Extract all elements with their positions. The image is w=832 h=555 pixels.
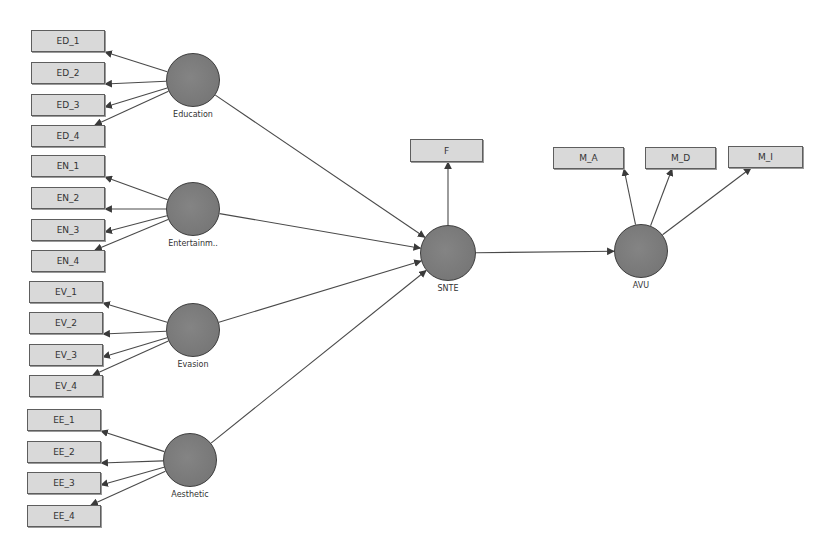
indicator-en-3[interactable]: EN_3 [31, 219, 105, 241]
loading-arrow-m_a [624, 169, 636, 225]
indicator-label: EN_3 [57, 225, 80, 235]
loading-arrow-ev_3 [103, 338, 167, 357]
loading-arrow-ev_4 [93, 341, 168, 375]
indicator-label: EV_2 [55, 318, 77, 328]
indicator-ed-4[interactable]: ED_4 [31, 125, 105, 147]
indicator-label: ED_3 [57, 100, 80, 110]
indicator-label: EE_1 [53, 415, 75, 425]
indicator-ed-1[interactable]: ED_1 [31, 30, 105, 52]
latent-label-evasion: Evasion [177, 360, 208, 369]
indicator-label: F [444, 146, 449, 156]
indicator-ev-1[interactable]: EV_1 [29, 281, 103, 303]
indicator-m-i[interactable]: M_I [728, 146, 803, 168]
loading-arrow-ed_4 [95, 91, 168, 125]
indicator-en-4[interactable]: EN_4 [31, 250, 105, 272]
indicator-ed-3[interactable]: ED_3 [31, 94, 105, 116]
loading-arrow-en_4 [95, 219, 168, 250]
latent-label-aesthetic: Aesthetic [171, 490, 208, 499]
loading-arrow-ed_3 [105, 88, 167, 107]
latent-label-education: Education [173, 110, 213, 119]
indicator-label: M_D [671, 153, 690, 163]
indicator-label: ED_1 [57, 36, 80, 46]
indicator-label: EE_3 [53, 478, 75, 488]
loading-arrow-m_i [663, 168, 751, 235]
indicator-label: M_A [579, 153, 597, 163]
latent-variable-avu[interactable] [614, 224, 668, 278]
loading-arrow-ed_2 [105, 81, 166, 84]
latent-label-avu: AVU [633, 281, 649, 290]
latent-variable-aesthetic[interactable] [163, 433, 217, 487]
indicator-ev-3[interactable]: EV_3 [29, 344, 103, 366]
loading-arrow-ed_1 [105, 52, 167, 72]
indicator-ev-2[interactable]: EV_2 [29, 312, 103, 334]
indicator-en-1[interactable]: EN_1 [31, 155, 105, 177]
path-arrow-aesthetic-to-snte [211, 271, 426, 444]
loading-arrow-ev_2 [103, 331, 166, 334]
indicator-label: EV_3 [55, 350, 77, 360]
indicator-en-2[interactable]: EN_2 [31, 187, 105, 209]
latent-label-snte: SNTE [437, 284, 458, 293]
indicator-label: EE_2 [53, 447, 75, 457]
latent-variable-education[interactable] [166, 53, 220, 107]
loading-arrow-ev_1 [103, 303, 167, 322]
path-arrow-snte-to-avu [476, 251, 614, 252]
latent-variable-snte[interactable] [420, 225, 476, 281]
indicator-m-a[interactable]: M_A [553, 147, 624, 169]
loading-arrow-ee_2 [101, 461, 163, 463]
indicator-label: EV_4 [55, 381, 77, 391]
path-diagram-canvas [0, 0, 832, 555]
indicator-label: ED_2 [57, 68, 80, 78]
loading-arrow-en_1 [105, 177, 168, 200]
indicator-ev-4[interactable]: EV_4 [29, 375, 103, 397]
indicator-m-d[interactable]: M_D [645, 147, 716, 169]
latent-label-entertainment: Entertainm.. [168, 239, 218, 248]
indicator-ee-3[interactable]: EE_3 [27, 472, 101, 494]
indicator-label: EE_4 [53, 511, 75, 521]
loading-arrow-m_d [651, 169, 672, 226]
indicator-label: M_I [758, 152, 773, 162]
indicator-f[interactable]: F [410, 139, 483, 162]
path-arrow-entertainment-to-snte [220, 214, 421, 249]
indicator-ee-4[interactable]: EE_4 [27, 505, 101, 527]
indicator-label: EV_1 [55, 287, 77, 297]
path-arrow-education-to-snte [215, 95, 424, 237]
latent-variable-evasion[interactable] [166, 303, 220, 357]
indicator-label: EN_4 [57, 256, 80, 266]
indicator-label: ED_4 [57, 131, 80, 141]
indicator-label: EN_2 [57, 193, 80, 203]
indicator-ee-2[interactable]: EE_2 [27, 441, 101, 463]
loading-arrow-ee_1 [101, 431, 164, 452]
latent-variable-entertainment[interactable] [166, 182, 220, 236]
path-arrow-evasion-to-snte [219, 261, 421, 322]
loading-arrow-ee_4 [91, 471, 165, 505]
indicator-ed-2[interactable]: ED_2 [31, 62, 105, 84]
indicator-ee-1[interactable]: EE_1 [27, 409, 101, 431]
indicator-label: EN_1 [57, 161, 80, 171]
